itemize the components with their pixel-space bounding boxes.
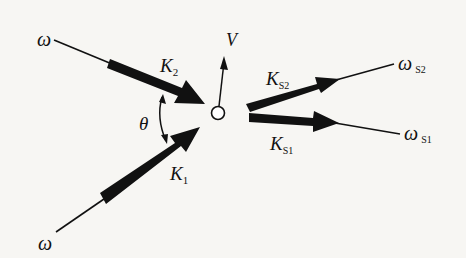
theta-label: θ (139, 113, 148, 134)
ks1-label: KS1 (269, 133, 293, 156)
scattering-particle-circle (212, 107, 225, 120)
ks2-thin-line (336, 64, 394, 80)
ks2-thick-arrow (246, 77, 340, 112)
velocity-vector (219, 56, 228, 106)
theta-arrow-bottom (161, 134, 168, 144)
incident-wave-k2 (54, 40, 205, 104)
k2-thin-line (54, 40, 112, 64)
wave-vector-diagram: ω ω K2 K1 θ V KS2 KS1 ωS2 ωS1 (0, 0, 466, 258)
omega-s1-label: ωS1 (404, 122, 432, 145)
scattered-wave-ks1 (249, 111, 400, 134)
k1-thick-arrow (100, 127, 200, 204)
ks1-thin-line (335, 123, 400, 134)
ks2-label: KS2 (265, 68, 289, 91)
v-arrow-head (220, 56, 228, 70)
ks1-thick-arrow (249, 111, 339, 132)
k2-label: K2 (159, 55, 178, 78)
omega-s2-label: ωS2 (398, 52, 426, 75)
theta-angle-arc (159, 94, 168, 144)
omega-top-label: ω (37, 28, 51, 50)
k1-label: K1 (169, 163, 188, 186)
k2-thick-arrow (107, 59, 205, 104)
v-label: V (226, 30, 239, 50)
omega-bottom-label: ω (38, 232, 52, 254)
k1-thin-line (56, 199, 104, 232)
